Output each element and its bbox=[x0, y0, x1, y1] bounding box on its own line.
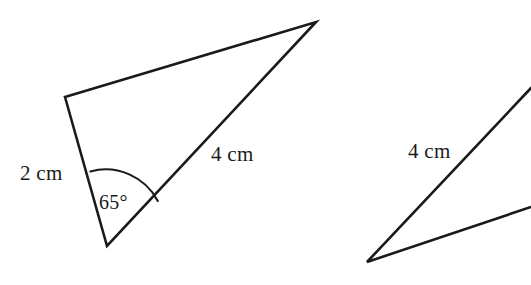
label-left-triangle-angle-65: 65° bbox=[99, 192, 128, 212]
right-triangle bbox=[367, 88, 531, 262]
label-left-triangle-side-4cm: 4 cm bbox=[211, 144, 254, 165]
geometry-figure: 2 cm 4 cm 65° 4 cm bbox=[0, 0, 531, 285]
label-right-triangle-side-4cm: 4 cm bbox=[408, 141, 451, 162]
geometry-canvas bbox=[0, 0, 531, 285]
right-triangle-outline bbox=[367, 88, 531, 262]
label-left-triangle-side-2cm: 2 cm bbox=[20, 163, 63, 184]
